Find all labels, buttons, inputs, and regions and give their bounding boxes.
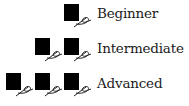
legend-row-beginner: Beginner bbox=[0, 3, 189, 27]
legend-label-intermediate: Intermediate bbox=[97, 40, 184, 56]
thread-spool-icon bbox=[64, 3, 94, 29]
legend-label-beginner: Beginner bbox=[97, 5, 158, 21]
thread-spool-icon bbox=[64, 72, 94, 98]
thread-spool-icon bbox=[6, 72, 36, 98]
legend-row-advanced: Advanced bbox=[0, 72, 189, 96]
legend-label-advanced: Advanced bbox=[97, 75, 162, 91]
thread-spool-icon bbox=[35, 72, 65, 98]
thread-spool-icon bbox=[64, 37, 94, 63]
thread-spool-icon bbox=[35, 37, 65, 63]
legend-row-intermediate: Intermediate bbox=[0, 37, 189, 61]
